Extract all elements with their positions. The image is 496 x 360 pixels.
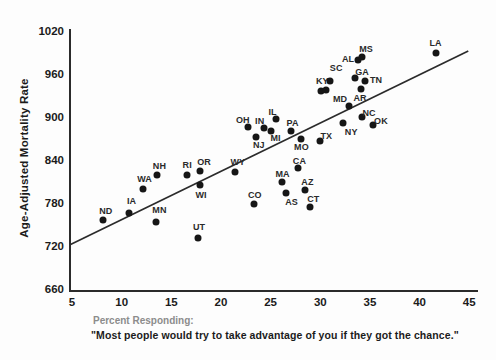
y-tick-660: 660: [30, 283, 64, 295]
state-label-IL: IL: [268, 107, 276, 117]
state-label-TN: TN: [370, 75, 382, 85]
data-point-unlabeled-25: [323, 86, 330, 93]
data-point-SC: [327, 78, 334, 85]
data-point-NY: [340, 119, 347, 126]
x-tick-40: 40: [413, 296, 426, 308]
data-point-AR: [358, 86, 365, 93]
state-label-AS: AS: [285, 197, 298, 207]
x-tick-15: 15: [165, 296, 178, 308]
y-tick-840: 840: [30, 154, 64, 166]
data-point-UT: [195, 234, 202, 241]
data-point-TN: [361, 78, 368, 85]
state-label-WY: WY: [231, 157, 246, 167]
state-label-NH: NH: [153, 161, 166, 171]
y-axis-title: Age-Adjusted Mortality Rate: [18, 78, 30, 237]
x-tick-20: 20: [215, 296, 228, 308]
data-point-RI: [184, 172, 191, 179]
data-point-WY: [231, 168, 238, 175]
x-tick-10: 10: [115, 296, 128, 308]
data-point-MS: [359, 53, 366, 60]
state-label-OK: OK: [374, 116, 388, 126]
state-label-AR: AR: [353, 93, 366, 103]
state-label-NJ: NJ: [253, 140, 265, 150]
data-point-PA: [287, 127, 294, 134]
data-point-ND: [99, 216, 106, 223]
state-label-MD: MD: [333, 94, 347, 104]
state-label-AL: AL: [342, 54, 354, 64]
state-label-CT: CT: [307, 194, 319, 204]
x-tick-45: 45: [463, 296, 476, 308]
x-tick-5: 5: [69, 296, 75, 308]
state-label-IA: IA: [127, 196, 136, 206]
state-label-MS: MS: [359, 44, 373, 54]
state-label-AZ: AZ: [301, 177, 313, 187]
state-label-WI: WI: [196, 190, 207, 200]
data-point-AS: [282, 190, 289, 197]
data-point-OR: [197, 167, 204, 174]
state-label-CA: CA: [293, 156, 306, 166]
state-label-MA: MA: [275, 169, 289, 179]
state-label-RI: RI: [183, 160, 192, 170]
y-axis-line: [69, 29, 71, 292]
state-label-UT: UT: [193, 222, 205, 232]
data-point-MA: [278, 179, 285, 186]
state-label-MN: MN: [152, 205, 166, 215]
state-label-NY: NY: [345, 127, 358, 137]
state-label-MI: MI: [271, 133, 281, 143]
state-label-GA: GA: [355, 67, 369, 77]
state-label-SC: SC: [330, 63, 343, 73]
x-axis-caption-quote: "Most people would try to take advantage…: [91, 329, 459, 341]
x-tick-25: 25: [264, 296, 277, 308]
state-label-WA: WA: [137, 174, 152, 184]
y-tick-1020: 1020: [30, 25, 64, 37]
data-point-LA: [432, 50, 439, 57]
state-label-LA: LA: [429, 38, 441, 48]
state-label-TX: TX: [320, 131, 332, 141]
scatter-plot-figure: Age-Adjusted Mortality Rate 660720780840…: [0, 0, 496, 360]
data-point-CO: [250, 200, 257, 207]
x-axis-line: [69, 290, 478, 292]
state-label-CO: CO: [248, 190, 262, 200]
y-tick-900: 900: [30, 111, 64, 123]
data-point-CT: [307, 203, 314, 210]
y-tick-960: 960: [30, 68, 64, 80]
x-axis-caption-prefix: Percent Responding:: [93, 315, 194, 326]
state-label-OH: OH: [236, 115, 250, 125]
data-point-IA: [125, 209, 132, 216]
data-point-WA: [139, 185, 146, 192]
state-label-OR: OR: [197, 157, 211, 167]
y-tick-720: 720: [30, 240, 64, 252]
state-label-ND: ND: [99, 206, 112, 216]
x-tick-30: 30: [314, 296, 327, 308]
data-point-MN: [153, 218, 160, 225]
state-label-PA: PA: [286, 118, 298, 128]
x-tick-35: 35: [364, 296, 377, 308]
data-point-AZ: [302, 186, 309, 193]
y-tick-780: 780: [30, 197, 64, 209]
state-label-IN: IN: [255, 116, 264, 126]
data-point-NH: [154, 171, 161, 178]
state-label-MO: MO: [294, 142, 309, 152]
data-point-WI: [197, 181, 204, 188]
